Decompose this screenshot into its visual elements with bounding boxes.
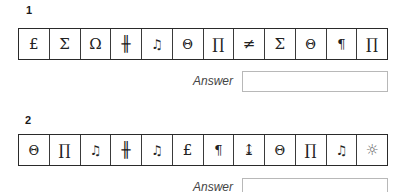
answer-input-2[interactable] (242, 178, 388, 192)
sigma-icon: Σ (50, 29, 81, 59)
music-note-icon: ♫ (81, 135, 112, 165)
music-note-icon: ♫ (327, 135, 358, 165)
theta-icon: Θ (296, 29, 327, 59)
answer-label-2: Answer (173, 180, 233, 192)
pi-product-icon: ∏ (357, 29, 387, 59)
music-note-icon: ♫ (142, 29, 173, 59)
double-cross-icon: ╫ (111, 135, 142, 165)
question-number-1: 1 (26, 5, 32, 16)
theta-icon: Θ (173, 29, 204, 59)
theta-icon: Θ (19, 135, 50, 165)
symbol-sequence-row-1: £ Σ Ω ╫ ♫ Θ ∏ ≠ Σ Θ ¶ ∏ (18, 28, 388, 60)
pound-sign-icon: £ (173, 135, 204, 165)
symbol-sequence-row-2: Θ ∏ ♫ ╫ ♫ £ ¶ ↨ Θ ∏ ♫ ☼ (18, 134, 388, 166)
pound-sign-icon: £ (19, 29, 50, 59)
omega-icon: Ω (81, 29, 112, 59)
not-equal-icon: ≠ (234, 29, 265, 59)
sigma-icon: Σ (265, 29, 296, 59)
double-cross-icon: ╫ (111, 29, 142, 59)
sun-icon: ☼ (357, 135, 387, 165)
theta-icon: Θ (265, 135, 296, 165)
up-down-arrow-with-base-icon: ↨ (234, 135, 265, 165)
question-number-2: 2 (25, 115, 31, 126)
answer-input-1[interactable] (242, 71, 388, 92)
pi-product-icon: ∏ (296, 135, 327, 165)
answer-label-1: Answer (173, 74, 233, 88)
music-note-icon: ♫ (142, 135, 173, 165)
pi-product-icon: ∏ (50, 135, 81, 165)
pilcrow-icon: ¶ (204, 135, 235, 165)
pi-product-icon: ∏ (204, 29, 235, 59)
pilcrow-icon: ¶ (327, 29, 358, 59)
